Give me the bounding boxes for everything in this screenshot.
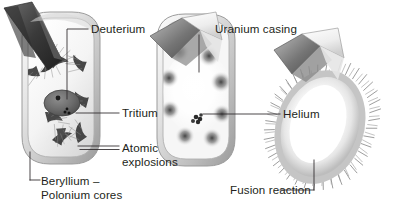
diagram-canvas: Deuterium Tritium Atomic explosions Bery… (0, 0, 403, 218)
deuterium-nucleus (56, 96, 61, 101)
label-deuterium: Deuterium (91, 22, 145, 35)
label-tritium: Tritium (122, 106, 158, 119)
label-atomic-explosions-line1: Atomic (122, 141, 158, 154)
fuel-capsule-core (44, 90, 80, 116)
panel-implosion (150, 12, 235, 166)
label-helium: Helium (283, 107, 320, 120)
label-fusion-reaction: Fusion reaction (230, 183, 311, 196)
label-uranium-casing: Uranium casing (215, 22, 297, 35)
thermonuclear-device-diagram: Deuterium Tritium Atomic explosions Bery… (0, 0, 403, 218)
label-atomic-explosions-line2: explosions (122, 155, 178, 168)
label-beryllium-line1: Beryllium – (41, 174, 100, 187)
label-beryllium-line2: Polonium cores (41, 188, 122, 201)
